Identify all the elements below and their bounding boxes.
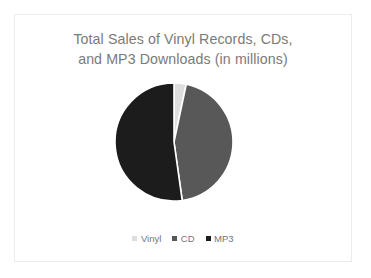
chart-title: Total Sales of Vinyl Records, CDs, and M… (15, 29, 351, 69)
pie-chart (112, 80, 236, 204)
pie-slice-vinyl[interactable] (174, 83, 186, 142)
legend-swatch-vinyl (132, 236, 137, 241)
chart-legend: Vinyl CD MP3 (15, 233, 351, 244)
legend-label-mp3: MP3 (214, 233, 234, 244)
legend-item-mp3[interactable]: MP3 (206, 233, 234, 244)
slide-card: Total Sales of Vinyl Records, CDs, and M… (14, 14, 352, 262)
legend-swatch-mp3 (206, 236, 211, 241)
pie-slice-group (115, 83, 233, 201)
chart-title-line-1: Total Sales of Vinyl Records, CDs, (15, 29, 351, 49)
legend-swatch-cd (172, 236, 177, 241)
pie-slice-cd[interactable] (174, 84, 233, 200)
pie-slice-mp3[interactable] (115, 83, 182, 201)
legend-label-vinyl: Vinyl (141, 233, 161, 244)
chart-title-line-2: and MP3 Downloads (in millions) (15, 49, 351, 69)
legend-label-cd: CD (181, 233, 195, 244)
legend-item-cd[interactable]: CD (172, 233, 194, 244)
legend-item-vinyl[interactable]: Vinyl (132, 233, 161, 244)
